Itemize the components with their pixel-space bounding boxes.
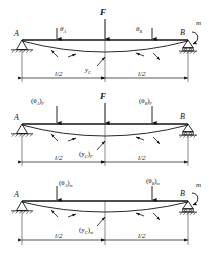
dim-label-left: l/2: [55, 70, 63, 78]
deflection-label: (yC)m: [79, 226, 93, 235]
force-label-F: F: [99, 91, 106, 101]
slope-tick-B-right: [153, 137, 160, 144]
slope-tick-B-left: [136, 137, 144, 140]
slope-tick-A-right: [68, 138, 76, 141]
slope-label-B: (θB)m: [146, 177, 160, 186]
force-label-F: F: [99, 7, 106, 17]
dim-label-left: l/2: [55, 154, 63, 162]
roller-support-right: [179, 40, 197, 54]
panel-combined: A B F m θA θB yC: [11, 7, 201, 82]
slope-tick-A-left: [51, 210, 58, 217]
slope-label-A: (θA)F: [31, 97, 45, 106]
deflection-pointer: [97, 217, 105, 226]
dim-label-right: l/2: [138, 70, 146, 78]
moment-label-m: m: [196, 181, 201, 189]
panel-moment-only: A B m (θA)m (θB)m (yC)m l/2: [11, 177, 201, 245]
deflection-label: yC: [84, 66, 91, 75]
moment-arc: [192, 32, 198, 44]
node-label-A: A: [13, 190, 19, 199]
panel-force-only: A B F (θA)F (θB)F (yC)F l/2 l/2: [11, 91, 197, 166]
dim-label-right: l/2: [138, 232, 146, 240]
slope-tick-A-right: [68, 214, 76, 217]
slope-tick-B-left: [136, 53, 144, 56]
node-label-B: B: [180, 28, 185, 37]
node-label-B: B: [180, 189, 185, 198]
slope-tick-B-right: [153, 213, 160, 220]
slope-label-A: θA: [60, 25, 66, 34]
node-label-A: A: [13, 29, 19, 38]
moment-arc: [192, 193, 198, 205]
node-label-A: A: [13, 113, 19, 122]
slope-tick-A-right: [68, 54, 76, 57]
node-label-B: B: [180, 112, 185, 121]
roller-support-right: [179, 124, 197, 138]
deflection-label: (yC)F: [79, 150, 93, 159]
slope-tick-A-left: [51, 50, 58, 57]
deflection-pointer: [97, 141, 105, 150]
slope-label-B: θB: [136, 25, 142, 34]
slope-label-A: (θA)m: [59, 179, 73, 188]
slope-label-B: (θB)F: [139, 97, 153, 106]
slope-tick-A-left: [51, 134, 58, 141]
dimension-group: l/2 l/2: [22, 201, 188, 245]
deflection-pointer: [97, 57, 105, 66]
dim-label-right: l/2: [138, 154, 146, 162]
slope-tick-B-left: [136, 213, 144, 216]
dim-label-left: l/2: [55, 232, 63, 240]
beam-superposition-figure: A B F m θA θB yC: [0, 0, 212, 258]
slope-tick-B-right: [153, 53, 160, 60]
moment-label-m: m: [196, 19, 201, 27]
